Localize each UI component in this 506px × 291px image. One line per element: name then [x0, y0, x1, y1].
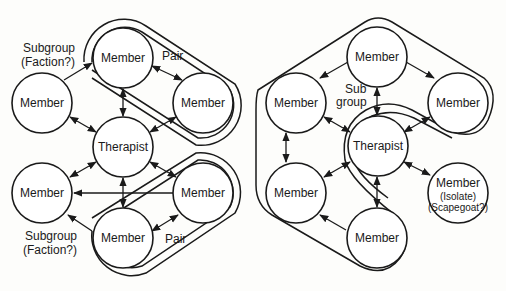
node-label: Therapist — [353, 139, 404, 153]
node-member-bottom: Member — [93, 208, 153, 268]
annotation-subgroup-top: Subgroup — [23, 41, 75, 55]
node-label: Therapist — [98, 140, 149, 154]
edge-top-to-left — [320, 62, 348, 78]
left-diagram: Member Member Member Therapist Member Me… — [12, 19, 241, 275]
group-dynamics-diagram: Member Member Member Therapist Member Me… — [0, 0, 506, 291]
edge-therapist-lowerright — [150, 162, 176, 177]
edge-therapist-lowerleft — [70, 162, 96, 177]
node-label: Member — [20, 186, 64, 200]
node-sublabel-scapegoat: (Scapegoat?) — [428, 202, 488, 213]
annotation-faction-top: (Faction?) — [21, 55, 75, 69]
annotation-subgroup-bottom: Subgroup — [25, 229, 77, 243]
node-member-isolate: Member (Isolate) (Scapegoat?) — [428, 163, 488, 223]
edge-bottom-lowerright — [152, 215, 178, 231]
edge-top-to-right — [406, 62, 434, 78]
node-member-right: Member — [173, 73, 233, 133]
node-label: Member — [436, 176, 480, 190]
node-member-right: Member — [428, 73, 488, 133]
node-member-top: Member — [93, 28, 153, 88]
node-member-top: Member — [347, 27, 407, 87]
annotation-group: group — [336, 95, 367, 109]
edge-bottom-to-lowerleft — [320, 215, 346, 230]
node-label: Member — [181, 96, 225, 110]
node-sublabel-isolate: (Isolate) — [440, 191, 476, 202]
annotation-pair-bottom: Pair — [165, 232, 186, 246]
right-diagram: Member Member Member Therapist Member Me… — [256, 18, 493, 271]
edge-top-right — [152, 66, 182, 80]
edge-left-therapist — [324, 117, 350, 132]
node-label: Member — [274, 96, 318, 110]
node-member-left: Member — [12, 73, 72, 133]
node-therapist: Therapist — [348, 116, 408, 176]
edge-left-therapist — [70, 117, 96, 132]
node-label: Member — [355, 50, 399, 64]
edge-therapist-isolate — [404, 162, 430, 175]
annotation-pair-top: Pair — [162, 49, 183, 63]
annotation-faction-bottom: (Faction?) — [23, 243, 77, 257]
node-therapist: Therapist — [93, 117, 153, 177]
node-member-lower-right: Member — [173, 163, 233, 223]
node-label: Member — [101, 51, 145, 65]
node-label: Member — [436, 96, 480, 110]
node-label: Member — [274, 186, 318, 200]
node-label: Member — [355, 231, 399, 245]
node-member-lower-left: Member — [12, 163, 72, 223]
node-label: Member — [101, 231, 145, 245]
node-label: Member — [20, 96, 64, 110]
edge-therapist-lowerleft — [324, 162, 350, 177]
node-label: Member — [181, 186, 225, 200]
node-member-left: Member — [266, 73, 326, 133]
annotation-sub: Sub — [345, 82, 367, 96]
node-member-lower-left: Member — [266, 163, 326, 223]
node-member-bottom: Member — [347, 208, 407, 268]
